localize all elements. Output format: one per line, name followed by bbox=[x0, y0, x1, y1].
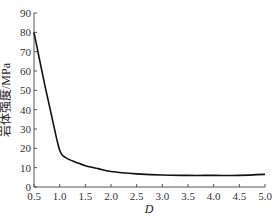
y-tick-label: 10 bbox=[20, 162, 32, 174]
x-axis-title: D bbox=[144, 202, 154, 216]
x-tick-label: 4.0 bbox=[207, 190, 221, 202]
y-tick-label: 50 bbox=[20, 84, 32, 96]
x-tick-label: 1.0 bbox=[53, 190, 67, 202]
x-tick-label: 0.5 bbox=[27, 190, 41, 202]
x-tick-label: 4.5 bbox=[232, 190, 246, 202]
x-tick-label: 2.0 bbox=[104, 190, 118, 202]
y-axis-title: 岩体强度/MPa bbox=[0, 62, 13, 137]
y-tick-label: 40 bbox=[20, 104, 32, 116]
y-tick-label: 60 bbox=[20, 65, 32, 77]
y-tick-label: 30 bbox=[20, 123, 32, 135]
x-axis: 0.51.01.52.02.53.03.54.04.55.0 bbox=[27, 184, 272, 202]
x-tick-label: 3.5 bbox=[181, 190, 195, 202]
x-tick-label: 5.0 bbox=[258, 190, 272, 202]
strength-curve bbox=[34, 32, 265, 175]
y-tick-label: 20 bbox=[20, 142, 32, 154]
y-tick-label: 90 bbox=[20, 7, 32, 19]
x-tick-label: 1.5 bbox=[78, 190, 92, 202]
y-tick-label: 70 bbox=[20, 46, 32, 58]
line-chart: 0102030405060708090 0.51.01.52.02.53.03.… bbox=[0, 0, 277, 222]
x-tick-label: 2.5 bbox=[130, 190, 144, 202]
y-tick-label: 80 bbox=[20, 26, 32, 38]
x-tick-label: 3.0 bbox=[155, 190, 169, 202]
